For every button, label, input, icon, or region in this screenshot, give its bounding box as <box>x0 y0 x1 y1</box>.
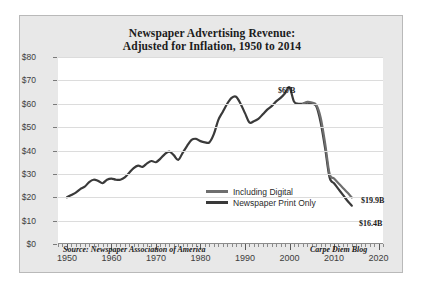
x-axis-minor-tick <box>374 244 375 247</box>
legend-swatch-icon <box>206 201 228 204</box>
legend-item-newspaper-print-only: Newspaper Print Only <box>206 197 316 208</box>
source-note: Source: Newspaper Association of America <box>63 245 206 254</box>
legend-label-including-digital: Including Digital <box>233 187 293 197</box>
credit-note: Carpe Diem Blog <box>310 245 367 254</box>
gridline <box>58 221 383 222</box>
chart-figure: Newspaper Advertising Revenue: Adjusted … <box>19 15 403 273</box>
legend-swatch-icon <box>206 190 228 193</box>
y-axis-tick <box>53 127 57 128</box>
x-axis-minor-tick <box>227 244 228 247</box>
x-axis-minor-tick <box>281 244 282 247</box>
x-axis-minor-tick <box>218 244 219 247</box>
x-axis-minor-tick <box>285 244 286 247</box>
y-axis-tick-label: $70 <box>2 75 36 85</box>
x-axis-minor-tick <box>303 244 304 247</box>
y-axis-tick <box>53 174 57 175</box>
annotation-print-only-end: $16.4B <box>359 219 382 228</box>
x-axis-tick-label: 1980 <box>183 253 217 263</box>
x-axis-minor-tick <box>254 244 255 247</box>
x-axis-tick-label: 1990 <box>228 253 262 263</box>
gridline <box>58 151 383 152</box>
x-axis-tick-label: 2020 <box>362 253 396 263</box>
x-axis-minor-tick <box>236 244 237 247</box>
chart-screenshot: Newspaper Advertising Revenue: Adjusted … <box>0 0 421 291</box>
x-axis-minor-tick <box>258 244 259 247</box>
y-axis-tick <box>53 151 57 152</box>
x-axis-tick-label: 1970 <box>139 253 173 263</box>
annotation-including-digital-end: $19.9B <box>361 196 384 205</box>
y-axis-tick <box>53 104 57 105</box>
x-axis-major-tick <box>245 244 246 250</box>
y-axis-tick <box>53 80 57 81</box>
x-axis-minor-tick <box>209 244 210 247</box>
x-axis-major-tick <box>379 244 380 250</box>
y-axis-tick-label: $10 <box>2 216 36 226</box>
gridline <box>58 80 383 81</box>
x-axis-tick-label: 1960 <box>94 253 128 263</box>
x-axis-tick-label: 1950 <box>50 253 84 263</box>
x-axis-minor-tick <box>370 244 371 247</box>
y-axis-tick-label: $0 <box>2 239 36 249</box>
gridline <box>58 127 383 128</box>
y-axis-tick <box>53 221 57 222</box>
y-axis-tick-label: $20 <box>2 192 36 202</box>
legend-item-including-digital: Including Digital <box>206 186 316 197</box>
gridline <box>58 104 383 105</box>
x-axis-minor-tick <box>58 244 59 247</box>
x-axis-minor-tick <box>307 244 308 247</box>
x-axis-minor-tick <box>249 244 250 247</box>
y-axis-tick <box>53 57 57 58</box>
y-axis-tick-label: $40 <box>2 146 36 156</box>
y-axis-tick-label: $50 <box>2 122 36 132</box>
x-axis-minor-tick <box>298 244 299 247</box>
x-axis-tick-label: 2000 <box>273 253 307 263</box>
y-axis-tick <box>53 197 57 198</box>
x-axis-major-tick <box>290 244 291 250</box>
chart-legend: Including Digital Newspaper Print Only <box>206 186 316 208</box>
x-axis-minor-tick <box>294 244 295 247</box>
y-axis-tick-label: $80 <box>2 52 36 62</box>
y-axis-tick-label: $30 <box>2 169 36 179</box>
x-axis-minor-tick <box>214 244 215 247</box>
legend-label-newspaper-print-only: Newspaper Print Only <box>233 198 316 208</box>
chart-title: Newspaper Advertising Revenue: Adjusted … <box>20 27 404 53</box>
chart-title-line-1: Newspaper Advertising Revenue: <box>20 27 404 40</box>
chart-title-line-2: Adjusted for Inflation, 1950 to 2014 <box>20 40 404 53</box>
x-axis-minor-tick <box>383 244 384 247</box>
x-axis-minor-tick <box>263 244 264 247</box>
annotation-peak-67b: $67B <box>278 86 295 95</box>
y-axis-tick-label: $60 <box>2 99 36 109</box>
plot-area <box>58 57 383 244</box>
x-axis-minor-tick <box>276 244 277 247</box>
x-axis-tick-label: 2010 <box>317 253 351 263</box>
x-axis-minor-tick <box>241 244 242 247</box>
y-axis-tick <box>53 244 57 245</box>
x-axis-minor-tick <box>267 244 268 247</box>
x-axis-minor-tick <box>223 244 224 247</box>
x-axis-minor-tick <box>232 244 233 247</box>
x-axis-minor-tick <box>272 244 273 247</box>
gridline <box>58 57 383 58</box>
gridline <box>58 174 383 175</box>
